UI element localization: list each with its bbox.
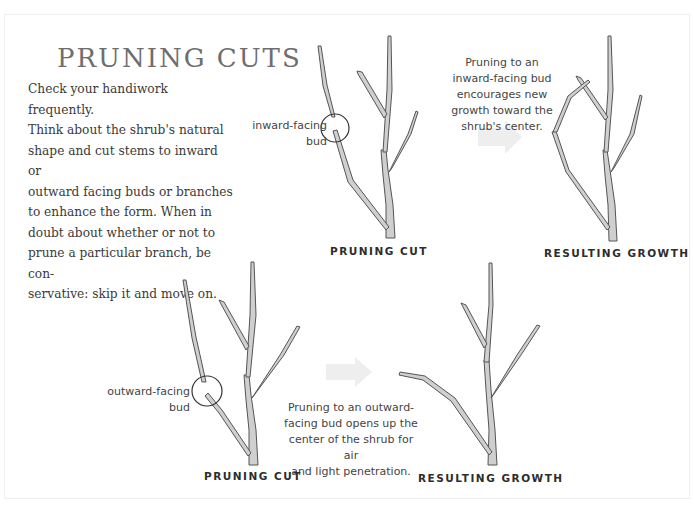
shrub-pruning-cut-inward-icon: [318, 36, 418, 238]
bud-label-line: outward-facing: [107, 385, 190, 398]
bud-label-line: bud: [169, 401, 190, 414]
outward-bud-label: outward-facing bud: [100, 384, 190, 416]
shrub-resulting-growth-inward-icon: [552, 36, 642, 241]
inward-bud-label: inward-facing bud: [242, 118, 327, 150]
caption-resulting-growth-bottom: RESULTING GROWTH: [418, 472, 564, 484]
caption-pruning-cut-bottom: PRUNING CUT: [204, 470, 302, 482]
note-line: and light penetration.: [291, 465, 411, 478]
note-line: encourages new: [457, 88, 547, 101]
outward-note: Pruning to an outward- facing bud opens …: [280, 400, 422, 480]
bud-label-line: inward-facing: [252, 119, 327, 132]
bud-label-line: bud: [306, 135, 327, 148]
inward-note: Pruning to an inward-facing bud encourag…: [450, 55, 554, 135]
note-line: facing bud opens up the: [284, 417, 418, 430]
note-line: Pruning to an: [465, 56, 539, 69]
arrow-right-icon: [326, 357, 372, 387]
note-line: center of the shrub for air: [289, 433, 413, 462]
note-line: inward-facing bud: [452, 72, 551, 85]
caption-resulting-growth-top: RESULTING GROWTH: [544, 247, 690, 259]
note-line: growth toward the: [451, 104, 552, 117]
caption-pruning-cut-top: PRUNING CUT: [330, 245, 428, 257]
note-line: Pruning to an outward-: [288, 401, 414, 414]
note-line: shrub's center.: [461, 120, 542, 133]
